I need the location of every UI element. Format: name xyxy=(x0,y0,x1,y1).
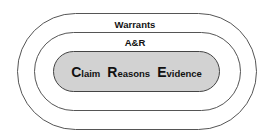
term-rest: vidence xyxy=(166,68,201,79)
term-rest: easons xyxy=(117,68,150,79)
warrants-label: Warrants xyxy=(0,19,270,30)
term-reasons: Reasons xyxy=(107,63,150,81)
term-initial: C xyxy=(71,64,81,80)
term-initial: R xyxy=(107,64,117,80)
term-rest: laim xyxy=(81,68,100,79)
ar-label: A&R xyxy=(0,37,270,48)
term-evidence: Evidence xyxy=(157,63,202,81)
core-terms: Claim Reasons Evidence xyxy=(53,51,220,92)
term-claim: Claim xyxy=(71,63,100,81)
